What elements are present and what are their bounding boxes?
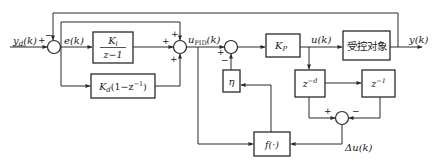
summing-junction-error bbox=[48, 41, 61, 54]
wire-f-to-eta bbox=[241, 85, 271, 132]
sign-sum3-bottom: − bbox=[221, 55, 229, 65]
control-signal-label: u(k) bbox=[311, 34, 331, 45]
eta-block: η bbox=[223, 70, 240, 92]
wire-delta-u-to-f bbox=[291, 125, 342, 144]
pid-control-block-diagram: + − + + + + − + − Ki z−1 Kd(1−z−1) KP 受控… bbox=[0, 0, 433, 166]
error-signal-label: e(k) bbox=[64, 35, 84, 46]
integral-block: Ki z−1 bbox=[93, 32, 133, 63]
sign-sum1-top: − bbox=[45, 30, 53, 40]
summing-junction-correction bbox=[225, 41, 238, 54]
output-signal-label: y(k) bbox=[408, 34, 429, 45]
plant-block: 受控对象 bbox=[343, 31, 390, 60]
eta-label: η bbox=[229, 76, 235, 87]
nonlinear-function-block: f(·) bbox=[254, 132, 290, 156]
nonlinear-function-label: f(·) bbox=[264, 139, 279, 150]
wire-error-to-derivative bbox=[61, 47, 90, 86]
sign-sum2-bottom: + bbox=[170, 54, 178, 64]
derivative-block: Kd(1−z−1) bbox=[91, 74, 155, 98]
delta-u-signal-label: Δu(k) bbox=[344, 142, 373, 153]
delay-d-block: z−d bbox=[295, 70, 325, 97]
pid-output-signal-label: uPID(k) bbox=[188, 34, 221, 47]
summing-junction-pid bbox=[174, 41, 187, 54]
sign-sum2-top: + bbox=[171, 29, 179, 39]
summing-junction-delta-u bbox=[336, 112, 349, 125]
proportional-block: KP bbox=[266, 34, 300, 57]
delay-1-block: z−1 bbox=[362, 70, 395, 97]
sign-sum4-right: − bbox=[352, 106, 360, 116]
plant-label: 受控对象 bbox=[347, 40, 387, 52]
sign-sum4-left: + bbox=[324, 106, 332, 116]
integral-denominator: z−1 bbox=[102, 49, 122, 60]
sign-sum2-left: + bbox=[162, 36, 170, 46]
